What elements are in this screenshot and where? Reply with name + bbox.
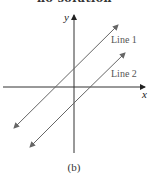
figure-caption: (b)	[68, 161, 81, 174]
x-axis-label: x	[141, 88, 147, 100]
parallel-lines-diagram: y x Line 1 Line 2 (b)	[0, 0, 149, 178]
line-1-label: Line 1	[111, 34, 137, 45]
line-2-label: Line 2	[111, 68, 137, 79]
line-1-lower	[14, 77, 66, 129]
y-axis-label: y	[63, 11, 69, 23]
line-2-lower	[30, 100, 77, 147]
